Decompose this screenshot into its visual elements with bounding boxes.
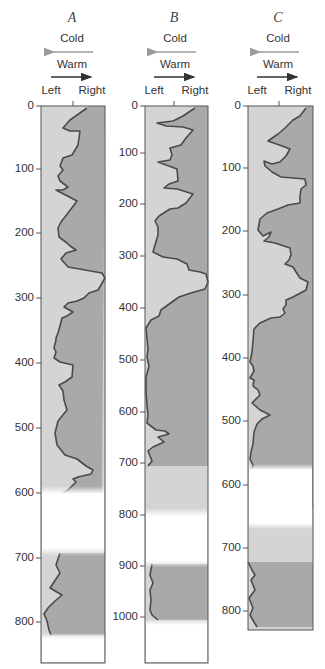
- tick-c-800: 800: [207, 604, 241, 616]
- tick-a-300: 300: [0, 291, 34, 303]
- tick-b-500: 500: [104, 353, 138, 365]
- tick-c-300: 300: [207, 288, 241, 300]
- panel-c: [243, 101, 313, 630]
- tick-b-200: 200: [104, 197, 138, 209]
- tick-c-400: 400: [207, 351, 241, 363]
- tick-c-500: 500: [207, 414, 241, 426]
- tick-c-600: 600: [207, 478, 241, 490]
- tick-a-500: 500: [0, 421, 34, 433]
- diagram-canvas: [0, 0, 325, 669]
- tick-c-0: 0: [207, 99, 241, 111]
- panel-a: [36, 101, 105, 663]
- tick-a-800: 800: [0, 615, 34, 627]
- tick-a-100: 100: [0, 162, 34, 174]
- tick-b-800: 800: [104, 508, 138, 520]
- tick-b-0: 0: [104, 99, 138, 111]
- legend-arrows: [51, 52, 299, 77]
- tick-a-0: 0: [0, 99, 34, 111]
- tick-b-1000: 1000: [104, 610, 138, 622]
- tick-a-700: 700: [0, 551, 34, 563]
- tick-b-100: 100: [104, 146, 138, 158]
- tick-c-100: 100: [207, 161, 241, 173]
- tick-a-200: 200: [0, 226, 34, 238]
- tick-b-700: 700: [104, 456, 138, 468]
- tick-b-600: 600: [104, 405, 138, 417]
- tick-a-400: 400: [0, 356, 34, 368]
- tick-b-400: 400: [104, 301, 138, 313]
- tick-c-700: 700: [207, 541, 241, 553]
- tick-c-200: 200: [207, 224, 241, 236]
- tick-b-300: 300: [104, 249, 138, 261]
- panel-b: [140, 101, 208, 663]
- tick-a-600: 600: [0, 486, 34, 498]
- tick-b-900: 900: [104, 559, 138, 571]
